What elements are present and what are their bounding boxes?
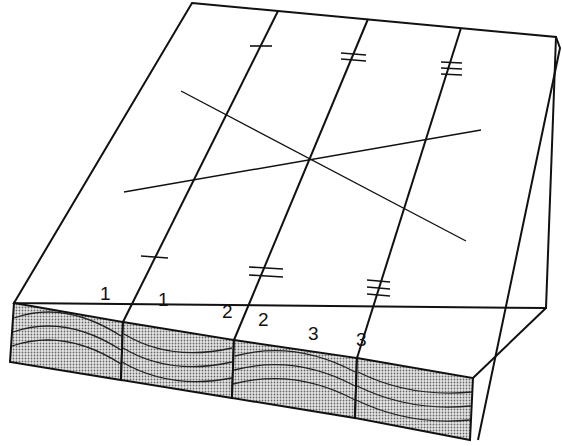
board-label: 2 — [258, 310, 269, 329]
board-label: 1 — [100, 284, 111, 303]
panel-drawing — [0, 0, 562, 446]
board-label: 1 — [158, 290, 169, 309]
board-label: 2 — [222, 302, 233, 321]
top-face — [14, 3, 556, 308]
board-label: 3 — [308, 324, 319, 343]
board-label: 3 — [356, 330, 367, 349]
board-diagram: 1 1 2 2 3 3 — [0, 0, 562, 446]
